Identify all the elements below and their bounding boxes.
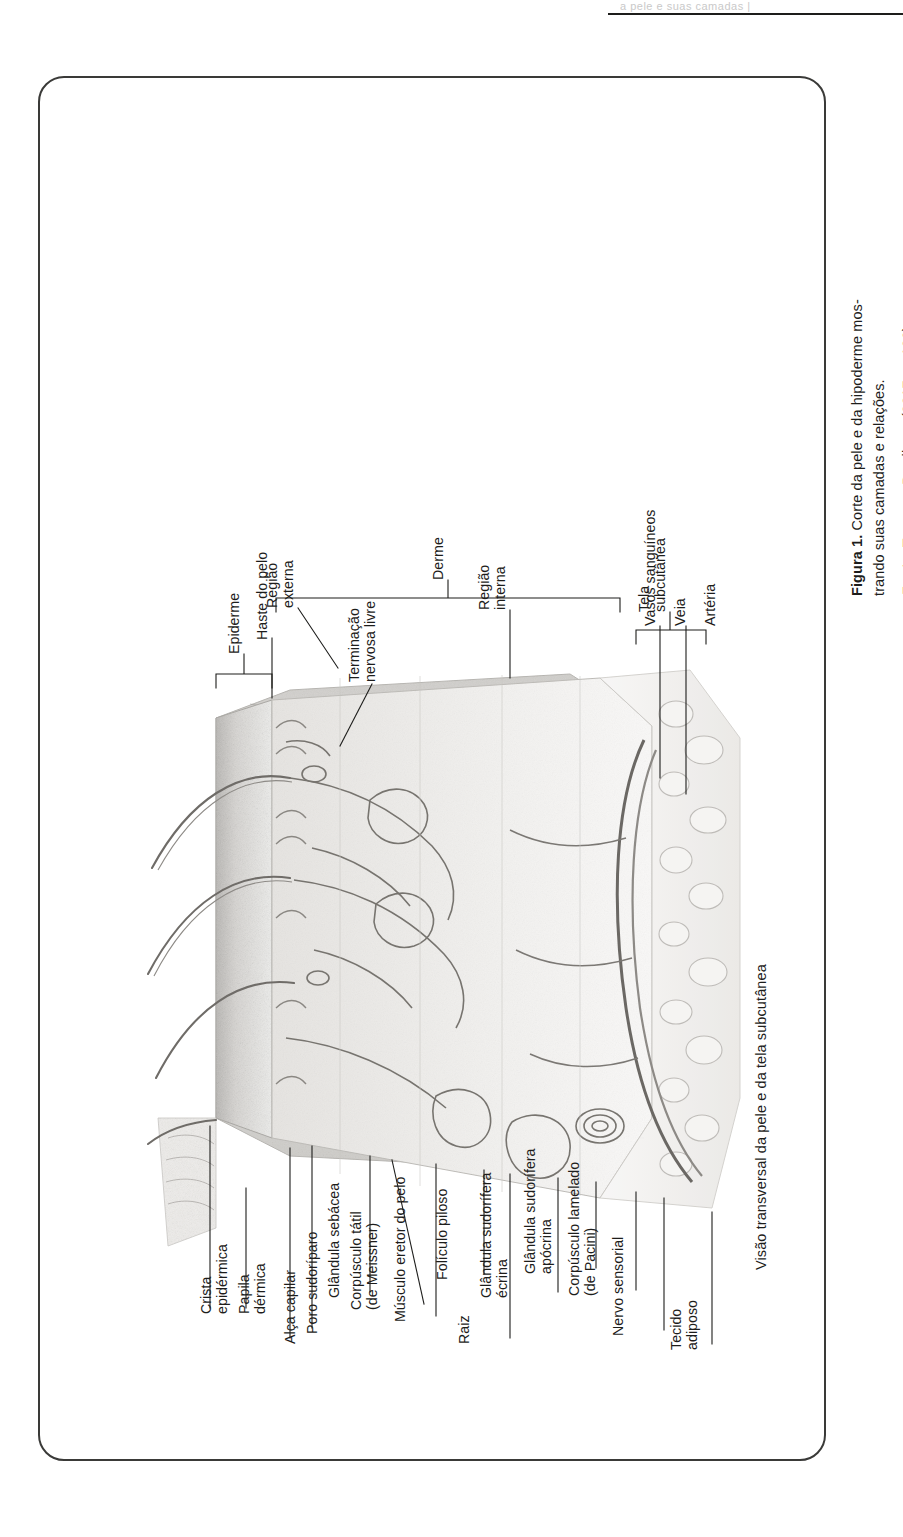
label-foliculo-piloso: Folículo piloso — [434, 1189, 450, 1280]
label-tecido-adiposo: Tecido adiposo — [668, 1300, 701, 1350]
figure-subtitle: Visão transversal da pele e da tela subc… — [745, 810, 785, 1290]
label-glandula-sudoripara-apocrina: Glândula sudorífera apócrina — [522, 1148, 555, 1274]
caption-figure-label: Figura 1. — [849, 535, 865, 596]
label-epiderme: Epiderme — [226, 593, 242, 654]
label-poro-sudoriparo: Poro sudoríparo — [304, 1232, 320, 1335]
label-crista-epidermica: Crista epidérmica — [198, 1244, 231, 1314]
label-arteria: Artéria — [702, 584, 718, 626]
caption-source: Fonte: Tortora e Derrikson (2017, p. 100… — [897, 76, 903, 596]
label-regiao-interna: Região interna — [476, 565, 509, 610]
label-papila-dermica: Papila dérmica — [236, 1263, 269, 1314]
caption-title-text: Corte da pele e da hipoderme mos- — [849, 299, 865, 535]
page-canvas: a pele e suas camadas | — [0, 0, 903, 1537]
label-musculo-eretor-do-pelo: Músculo eretor do pelo — [392, 1177, 408, 1322]
label-derme: Derme — [430, 537, 446, 580]
label-regiao-externa: Região externa — [264, 560, 297, 608]
label-vasos-sanguineos: Vasos sanguíneos — [642, 510, 658, 626]
label-terminacao-nervosa-livre: Terminação nervosa livre — [346, 601, 379, 682]
label-glandula-sudoripara-ecrina: Glândula sudorífera écrina — [478, 1172, 511, 1298]
label-corpusculo-lamelado: Corpúsculo lamelado (de Pacini) — [566, 1162, 599, 1296]
label-alca-capilar: Alça capilar — [282, 1270, 298, 1344]
caption-title-line1: Figura 1. Corte da pele e da hipoderme m… — [846, 76, 868, 596]
label-corpusculo-tatil: Corpúsculo tátil (de Meissner) — [348, 1211, 381, 1310]
page-header-ghost-text: a pele e suas camadas | — [620, 0, 880, 12]
figure-caption: Figura 1. Corte da pele e da hipoderme m… — [826, 76, 903, 616]
figure-subtitle-text: Visão transversal da pele e da tela subc… — [753, 810, 769, 1270]
label-nervo-sensorial: Nervo sensorial — [610, 1237, 626, 1336]
page-header-rule — [608, 13, 903, 15]
label-veia: Veia — [672, 598, 688, 626]
label-glandula-sebacea: Glândula sebácea — [326, 1183, 342, 1298]
caption-title-line2: trando suas camadas e relações. — [868, 76, 890, 596]
label-raiz: Raiz — [456, 1315, 472, 1344]
figure-frame: Haste do pelo Terminação nervosa livre E… — [38, 76, 826, 1461]
